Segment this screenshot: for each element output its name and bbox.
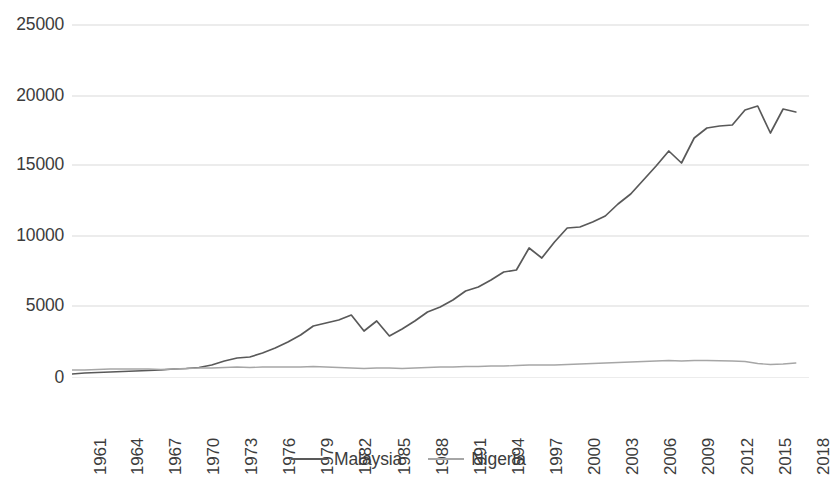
x-tick-label: 2018 — [815, 438, 832, 475]
series-line-malaysia — [72, 106, 796, 374]
y-tick-label: 10000 — [0, 227, 64, 245]
y-tick-label: 20000 — [0, 87, 64, 105]
legend-entry-malaysia[interactable]: Malaysia — [291, 450, 402, 468]
legend-label: Malaysia — [334, 450, 402, 468]
x-axis: 1961196419671970197319761979198219851988… — [72, 382, 809, 444]
y-tick-label: 0 — [0, 369, 64, 387]
plot-svg — [72, 8, 809, 378]
chart-legend: MalaysiaNigeria — [0, 446, 817, 472]
y-tick-label: 15000 — [0, 156, 64, 174]
series-line-nigeria — [72, 361, 796, 371]
legend-entry-nigeria[interactable]: Nigeria — [428, 450, 526, 468]
legend-line-swatch — [291, 458, 327, 460]
y-tick-label: 25000 — [0, 16, 64, 34]
y-axis: 0500010000150002000025000 — [0, 0, 64, 386]
legend-line-swatch — [428, 458, 464, 460]
legend-label: Nigeria — [471, 450, 526, 468]
plot-area — [72, 8, 809, 378]
y-tick-label: 5000 — [0, 297, 64, 315]
